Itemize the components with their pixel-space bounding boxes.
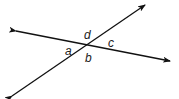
angle-label-a: a bbox=[65, 45, 72, 57]
line-2 bbox=[12, 5, 145, 96]
angle-label-c: c bbox=[108, 37, 114, 49]
angle-label-b: b bbox=[85, 52, 92, 64]
intersecting-lines-diagram bbox=[0, 0, 179, 99]
line-1 bbox=[16, 31, 170, 61]
angle-label-d: d bbox=[84, 29, 91, 41]
